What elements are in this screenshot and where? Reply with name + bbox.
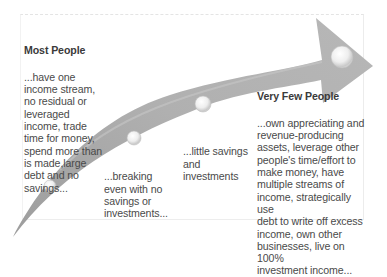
stage-breaking-even: ...breaking even with no savings or inve… [104,158,174,219]
stage-description: ...have one income stream, no residual o… [24,71,102,194]
stage-little-savings: ...little savings and investments [183,133,258,182]
stage-heading: Most People [24,44,104,56]
stage-bubble-4 [331,46,353,68]
stage-bubble-3 [195,96,211,112]
stage-most-people: Most People ...have one income stream, n… [24,32,104,194]
stage-description: ...breaking even with no savings or inve… [104,170,168,219]
stage-description: ...little savings and investments [183,145,248,182]
stage-bubble-2 [127,131,141,145]
stage-very-few-people: Very Few People ...own appreciating and … [257,78,369,277]
stage-description: ...own appreciating and revenue-producin… [257,117,364,277]
stage-heading: Very Few People [257,90,369,102]
